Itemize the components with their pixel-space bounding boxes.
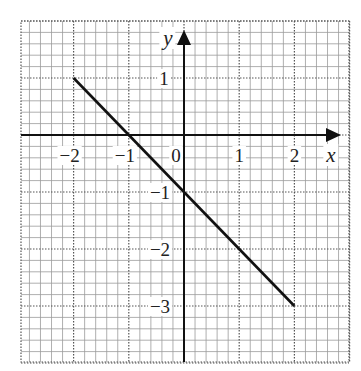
origin-label: 0 xyxy=(171,145,181,166)
y-tick-label: 1 xyxy=(159,68,169,89)
x-axis-label: x xyxy=(325,143,336,167)
y-axis-label: y xyxy=(161,26,173,50)
axes xyxy=(21,30,341,362)
tick-labels: −2−1121−1−2−30xy xyxy=(57,26,338,317)
y-tick-label: −2 xyxy=(150,239,170,260)
y-tick-label: −3 xyxy=(150,296,170,317)
x-tick-label: −1 xyxy=(115,145,135,166)
coordinate-plot: −2−1121−1−2−30xy xyxy=(0,0,361,371)
y-tick-label: −1 xyxy=(150,182,170,203)
x-tick-label: 1 xyxy=(234,145,244,166)
x-tick-label: 2 xyxy=(290,145,300,166)
x-tick-label: −2 xyxy=(59,145,79,166)
